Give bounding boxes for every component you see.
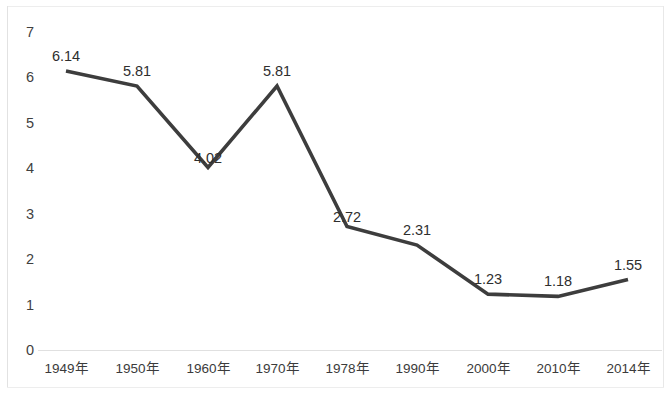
x-axis-tick-label: 1950年 (115, 362, 158, 376)
x-axis-tick-label: 1990年 (395, 362, 438, 376)
x-axis-tick-label: 1978年 (325, 362, 368, 376)
x-axis-tick-label: 1960年 (186, 362, 229, 376)
x-axis-tick-label: 2014年 (606, 362, 649, 376)
x-axis-tick-label: 1970年 (255, 362, 298, 376)
series-plot-area (0, 0, 671, 393)
line-chart: 76543210 6.145.814.025.812.722.311.231.1… (0, 0, 671, 393)
x-axis-tick-label: 2010年 (536, 362, 579, 376)
x-axis-tick-labels: 1949年1950年1960年1970年1978年1990年2000年2010年… (0, 362, 671, 384)
series-line (66, 71, 628, 296)
x-axis-tick-label: 2000年 (466, 362, 509, 376)
x-axis-tick-label: 1949年 (44, 362, 87, 376)
